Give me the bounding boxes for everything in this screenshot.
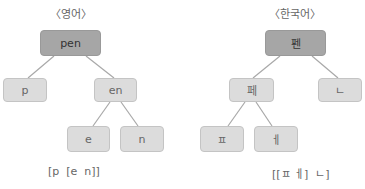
english-root-node: pen [40, 30, 101, 56]
faint-caption [128, 181, 248, 185]
korean-node-pieup: ㅍ [200, 126, 244, 152]
korean-node-pe: 페 [229, 78, 274, 102]
english-node-n: n [120, 126, 164, 152]
korean-node-nieun: ㄴ [318, 78, 362, 102]
english-node-p: p [3, 78, 47, 102]
korean-bracket-notation: [[ㅍ ㅔ] ㄴ] [272, 165, 330, 181]
english-node-en: en [94, 78, 137, 102]
tree-edges [0, 0, 365, 189]
korean-root-node: 펜 [265, 30, 326, 56]
korean-title: 〈한국어〉 [255, 5, 335, 21]
korean-node-e-vowel: ㅔ [254, 126, 298, 152]
english-bracket-notation: [p [e n]] [48, 165, 100, 178]
english-node-e: e [67, 126, 110, 152]
english-title: 〈영어〉 [31, 5, 111, 21]
